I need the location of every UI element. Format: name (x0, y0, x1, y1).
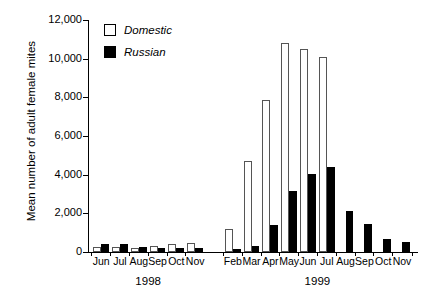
bar-domestic (319, 57, 327, 252)
legend-swatch-russian-icon (104, 46, 116, 58)
bar-russian (139, 247, 147, 252)
bar-russian (402, 242, 410, 252)
bar-domestic (93, 247, 101, 252)
y-axis-tick-label: 12,000 (28, 14, 82, 25)
y-axis-tick-label: 0 (28, 246, 82, 257)
bar-domestic (150, 246, 158, 252)
y-axis-tick-label: 10,000 (28, 53, 82, 64)
bar-domestic (281, 43, 289, 252)
y-axis-tick (83, 97, 88, 98)
bar-russian (308, 174, 316, 252)
x-axis-year-label: 1999 (277, 275, 357, 287)
y-axis-tick (83, 175, 88, 176)
x-axis-year-label: 1998 (108, 275, 188, 287)
bar-russian (327, 167, 335, 252)
y-axis-tick (83, 136, 88, 137)
y-axis-tick (83, 59, 88, 60)
bar-russian (364, 224, 372, 252)
bar-russian (383, 239, 391, 252)
bar-russian (195, 248, 203, 252)
legend-label-russian: Russian (124, 45, 166, 59)
legend-label-domestic: Domestic (124, 23, 172, 37)
bar-domestic (262, 100, 270, 252)
bar-domestic (244, 161, 252, 252)
x-axis-month-label: Nov (390, 256, 413, 267)
bar-russian (158, 248, 166, 252)
bar-russian (346, 211, 354, 252)
x-axis-month-label: Nov (184, 256, 207, 267)
y-axis-tick (83, 213, 88, 214)
chart-figure: Mean number of adult female mites 02,000… (0, 0, 434, 306)
bar-russian (233, 249, 241, 252)
y-axis-tick-label: 2,000 (28, 207, 82, 218)
bar-russian (270, 225, 278, 252)
y-axis-tick (83, 20, 88, 21)
x-axis-line (88, 252, 418, 253)
y-axis-tick-label: 6,000 (28, 130, 82, 141)
legend-swatch-domestic-icon (104, 24, 116, 36)
bar-domestic (300, 49, 308, 252)
y-axis-line (88, 20, 89, 253)
bar-russian (289, 191, 297, 252)
bar-russian (120, 244, 128, 252)
bar-domestic (131, 248, 139, 252)
bar-russian (101, 244, 109, 252)
bar-russian (176, 248, 184, 252)
bar-domestic (225, 229, 233, 252)
y-axis-tick (83, 252, 88, 253)
y-axis-tick-label: 4,000 (28, 169, 82, 180)
bar-domestic (187, 243, 195, 252)
bar-domestic (168, 244, 176, 252)
bar-domestic (112, 247, 120, 252)
y-axis-tick-label: 8,000 (28, 91, 82, 102)
bar-russian (252, 246, 260, 252)
